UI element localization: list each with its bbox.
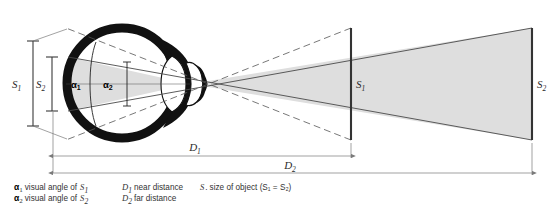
legend: α1visual angle ofS1 α2visual angle ofS2 … [14, 182, 292, 206]
legend-item-alpha1: α1visual angle ofS1 [14, 182, 88, 195]
distance-d1-label: D1 [188, 141, 201, 156]
legend-item-d2: D2far distance [121, 193, 177, 206]
legend-item-s: S.size of object (S₁ = S₂) [200, 182, 292, 192]
diagram-canvas: α1 α2 S1 S2 [0, 0, 556, 212]
distance-d2-label: D2 [283, 159, 296, 174]
legend-item-alpha2: α2visual angle ofS2 [14, 193, 88, 206]
visual-angle-diagram: α1 α2 S1 S2 [0, 0, 556, 212]
retinal-s1-leader-bottom [33, 126, 67, 139]
retinal-s1-label: S1 [12, 78, 21, 93]
retinal-s2-label: S2 [36, 78, 46, 93]
object-far-label: S2 [537, 78, 547, 93]
legend-item-d1: D1near distance [121, 182, 184, 195]
retinal-s1-leader-top [33, 29, 67, 41]
retinal-image-dimensions: S1 S2 [12, 29, 67, 139]
